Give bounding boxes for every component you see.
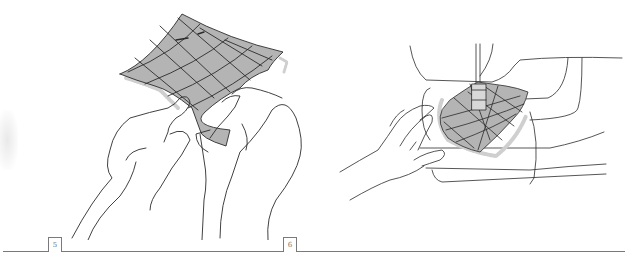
horizontal-rule [3,251,625,252]
step-6-illustration [330,0,628,240]
step-number: 6 [288,241,292,249]
step-number: 5 [53,241,57,249]
step-number-box-5: 5 [48,237,62,252]
step-5-illustration [0,0,330,240]
step-number-box-6: 6 [283,237,297,252]
